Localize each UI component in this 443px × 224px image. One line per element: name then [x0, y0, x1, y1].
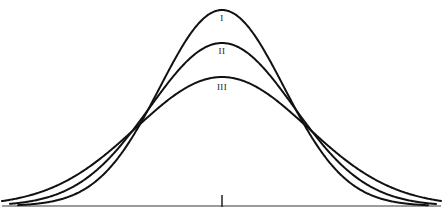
curve-label-i: I [220, 14, 223, 23]
curve-label-ii: II [219, 47, 226, 56]
curve-label-iii: III [217, 83, 227, 92]
distribution-curve-i [18, 10, 428, 205]
distribution-curve-ii [10, 43, 436, 204]
distribution-plot [0, 0, 443, 224]
distribution-curve-iii [2, 77, 441, 201]
distribution-figure: I II III [0, 0, 443, 224]
